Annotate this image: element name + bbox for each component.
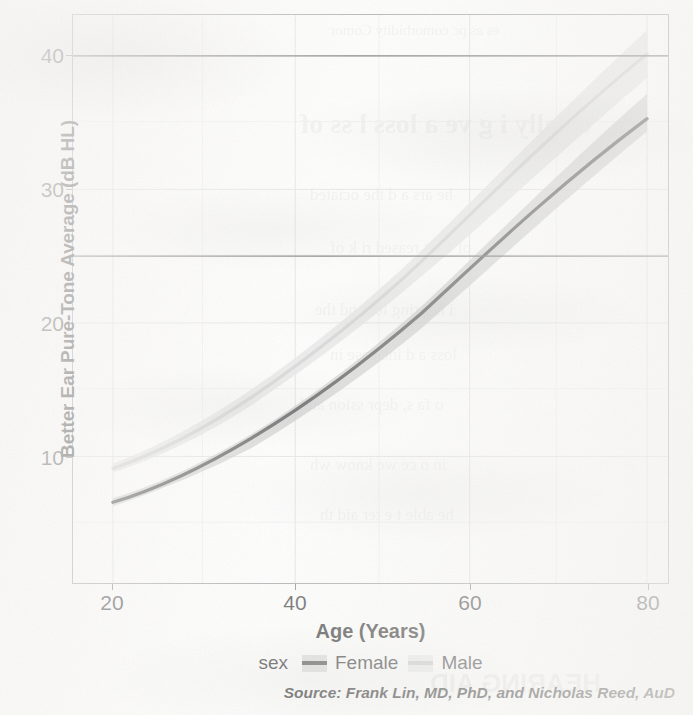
legend-title: sex <box>258 652 288 674</box>
scanned-chart-page: es as pc comorbidity Comor o cally i g v… <box>0 0 693 715</box>
legend-swatch-male-icon <box>408 655 433 672</box>
plot-svg <box>73 15 668 583</box>
legend-entry-female[interactable]: Female <box>302 652 398 674</box>
source-credit: Source: Frank Lin, MD, PhD, and Nicholas… <box>284 684 675 702</box>
x-tick-label-80: 80 <box>618 592 678 613</box>
legend-entry-male[interactable]: Male <box>408 652 482 674</box>
x-tick-mark <box>648 584 649 590</box>
legend-label-male: Male <box>441 652 482 674</box>
legend-swatch-female-icon <box>302 655 327 672</box>
plot-panel <box>72 14 669 584</box>
legend-label-female: Female <box>335 652 398 674</box>
x-tick-mark <box>112 584 113 590</box>
x-tick-label-20: 20 <box>82 592 142 613</box>
ribbon-male <box>113 30 647 472</box>
legend: sex Female Male <box>72 652 669 674</box>
x-axis-title: Age (Years) <box>72 620 669 643</box>
x-tick-mark <box>295 584 296 590</box>
y-axis-title: Better Ear Pure-Tone Average (dB HL) <box>57 9 79 569</box>
x-tick-label-40: 40 <box>265 592 325 613</box>
x-tick-mark <box>470 584 471 590</box>
x-tick-label-60: 60 <box>440 592 500 613</box>
